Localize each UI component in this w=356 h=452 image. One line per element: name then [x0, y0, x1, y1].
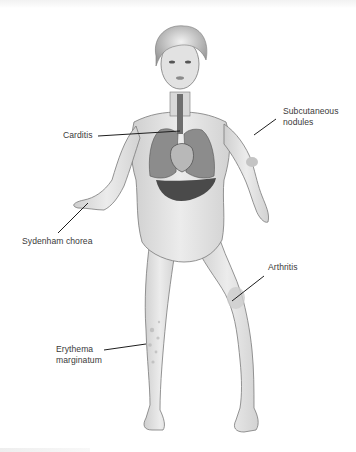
bottom-fade-band [0, 448, 90, 452]
left-leg [196, 240, 258, 432]
right-leg [144, 240, 176, 430]
elbow-nodule [246, 157, 258, 167]
nodules-line [254, 119, 276, 135]
label-arthritis: Arthritis [268, 262, 298, 273]
eye-right [169, 61, 175, 64]
legs [144, 240, 258, 432]
eye-left [185, 61, 191, 64]
trachea [177, 94, 183, 134]
human-figure-illustration [0, 0, 356, 452]
label-subcutaneous-nodules: Subcutaneous nodules [283, 106, 353, 128]
label-erythema-line1: Erythema [56, 344, 126, 355]
left-arm [224, 124, 269, 222]
label-sydenham-chorea: Sydenham chorea [22, 236, 93, 247]
chorea-line [58, 203, 88, 233]
label-erythema-line2: marginatum [56, 355, 126, 366]
label-subcutaneous-line2: nodules [283, 117, 353, 128]
label-subcutaneous-line1: Subcutaneous [283, 106, 353, 117]
mouth [176, 76, 184, 80]
label-carditis: Carditis [63, 130, 93, 141]
label-erythema-marginatum: Erythema marginatum [56, 344, 126, 366]
